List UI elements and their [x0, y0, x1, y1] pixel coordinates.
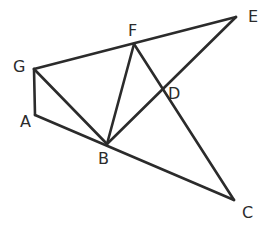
segment-ga	[34, 69, 35, 115]
point-label-g: G	[13, 57, 25, 76]
point-label-f: F	[128, 21, 137, 40]
point-label-e: E	[248, 7, 258, 26]
point-label-a: A	[20, 112, 31, 131]
segment-ac	[35, 115, 234, 200]
point-label-d: D	[168, 84, 180, 103]
segment-be	[107, 17, 236, 144]
point-label-c: C	[242, 203, 253, 222]
point-label-b: B	[98, 149, 109, 168]
segment-gb	[34, 69, 107, 144]
geometry-diagram: A B C D E F G	[0, 0, 279, 239]
segments-group	[34, 17, 236, 200]
